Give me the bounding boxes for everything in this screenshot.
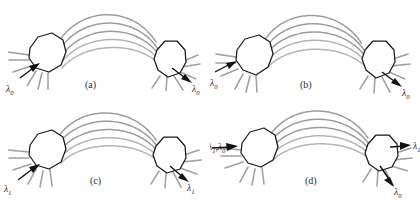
panel-caption-a: (a) [85, 79, 96, 91]
input-label-b: λ0 [210, 78, 218, 90]
node-right-c [153, 137, 186, 173]
fiber-bundle-c [56, 113, 160, 163]
fiber-bundle-a [56, 15, 161, 68]
output-label-a: λ0 [191, 84, 200, 96]
output-label-bottom-d: λ0 [393, 187, 402, 199]
panel-caption-b: (b) [300, 79, 312, 91]
input-label-a: λ0 [5, 84, 14, 96]
output-arrow-b [382, 72, 402, 87]
panel-c: λ1 λ1 (c) [0, 100, 210, 200]
fiber-bundle-d [268, 111, 372, 161]
panel-caption-c: (c) [90, 175, 101, 187]
output-label-top-d: λ1 [412, 141, 420, 153]
panel-caption-d: (d) [305, 175, 317, 187]
panel-a: λ0 λ0 (a) [0, 0, 210, 100]
input-label-d: λ1,λ0 [210, 142, 226, 154]
node-left-b [236, 35, 273, 75]
panel-d: λ1,λ0 λ1 λ0 (d) [210, 100, 420, 200]
input-arrow-a [20, 63, 40, 78]
output-label-b: λ0 [401, 88, 410, 100]
node-right-a [154, 41, 186, 77]
panel-b: λ0 λ0 (b) [210, 0, 420, 100]
figure-root: λ0 λ0 (a) [0, 0, 420, 200]
output-label-c: λ1 [186, 183, 194, 195]
input-label-c: λ1 [3, 184, 11, 196]
input-arrow-c [18, 164, 40, 180]
fiber-bundle-b [262, 16, 367, 69]
node-right-d [365, 135, 398, 171]
